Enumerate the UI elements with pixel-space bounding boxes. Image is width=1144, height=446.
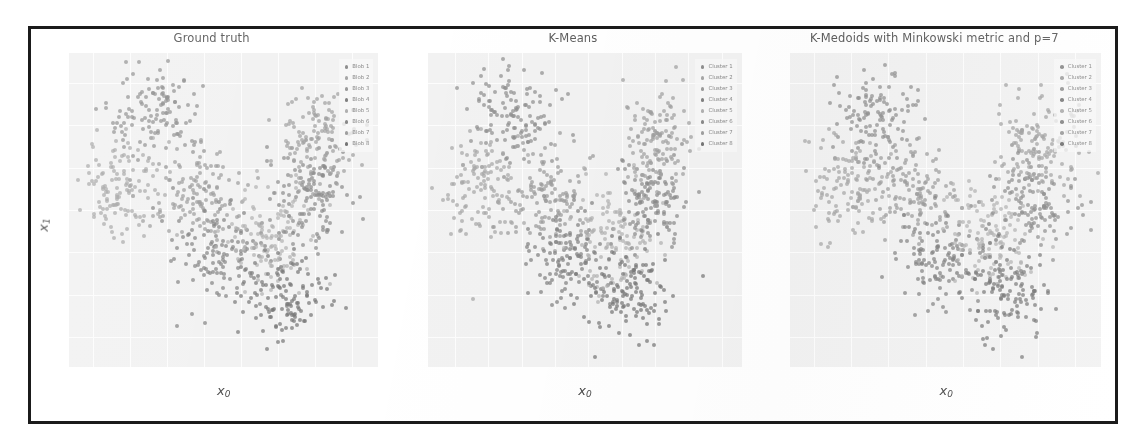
scatter-point bbox=[653, 120, 657, 124]
legend-item[interactable]: Cluster 6 bbox=[698, 117, 733, 127]
scatter-point bbox=[640, 130, 644, 134]
scatter-point bbox=[1009, 215, 1013, 219]
scatter-point bbox=[1062, 183, 1066, 187]
scatter-point bbox=[249, 296, 253, 300]
scatter-point bbox=[633, 226, 637, 230]
scatter-point bbox=[459, 228, 463, 232]
scatter-point bbox=[606, 205, 610, 209]
scatter-point bbox=[259, 288, 263, 292]
legend-item[interactable]: Cluster 3 bbox=[1057, 84, 1092, 94]
scatter-point bbox=[528, 231, 532, 235]
scatter-point bbox=[593, 355, 597, 359]
legend-item[interactable]: Cluster 7 bbox=[1057, 128, 1092, 138]
scatter-point bbox=[1043, 218, 1047, 222]
scatter-point bbox=[318, 214, 322, 218]
legend-marker-icon bbox=[345, 131, 349, 135]
scatter-point bbox=[1029, 270, 1033, 274]
scatter-point bbox=[477, 97, 481, 101]
scatter-point bbox=[879, 93, 883, 97]
scatter-point bbox=[156, 131, 160, 135]
scatter-point bbox=[1031, 296, 1035, 300]
scatter-point bbox=[265, 347, 269, 351]
scatter-point bbox=[224, 294, 228, 298]
scatter-point bbox=[1017, 251, 1021, 255]
scatter-point bbox=[1003, 313, 1007, 317]
scatter-point bbox=[550, 159, 554, 163]
legend-item[interactable]: Cluster 4 bbox=[698, 95, 733, 105]
scatter-point bbox=[115, 121, 119, 125]
scatter-point bbox=[305, 290, 309, 294]
legend-item[interactable]: Cluster 1 bbox=[1057, 62, 1092, 72]
scatter-point bbox=[1006, 186, 1010, 190]
scatter-point bbox=[491, 225, 495, 229]
scatter-point bbox=[318, 182, 322, 186]
scatter-point bbox=[991, 272, 995, 276]
scatter-point bbox=[931, 250, 935, 254]
panel-row: Ground truth-8-6-4-20246420-2-4-6-8Blob … bbox=[31, 29, 1115, 421]
scatter-point bbox=[637, 270, 641, 274]
scatter-point bbox=[923, 181, 927, 185]
scatter-point bbox=[243, 268, 247, 272]
scatter-point bbox=[1016, 165, 1020, 169]
scatter-point bbox=[301, 141, 305, 145]
legend-item[interactable]: Blob 4 bbox=[342, 95, 370, 105]
scatter-point bbox=[574, 272, 578, 276]
scatter-point bbox=[1024, 176, 1028, 180]
legend-item[interactable]: Cluster 5 bbox=[698, 106, 733, 116]
scatter-point bbox=[916, 277, 920, 281]
scatter-point bbox=[312, 100, 316, 104]
scatter-point bbox=[550, 303, 554, 307]
scatter-point bbox=[292, 247, 296, 251]
legend-item[interactable]: Cluster 8 bbox=[1057, 139, 1092, 149]
scatter-point bbox=[641, 316, 645, 320]
scatter-point bbox=[612, 227, 616, 231]
legend-item[interactable]: Blob 1 bbox=[342, 62, 370, 72]
scatter-point bbox=[1017, 179, 1021, 183]
scatter-point bbox=[545, 262, 549, 266]
scatter-point bbox=[982, 219, 986, 223]
scatter-point bbox=[1073, 177, 1077, 181]
scatter-point bbox=[516, 189, 520, 193]
scatter-point bbox=[186, 103, 190, 107]
scatter-point bbox=[539, 220, 543, 224]
scatter-point bbox=[835, 75, 839, 79]
legend-item[interactable]: Cluster 7 bbox=[698, 128, 733, 138]
legend-item[interactable]: Blob 7 bbox=[342, 128, 370, 138]
legend-item[interactable]: Cluster 4 bbox=[1057, 95, 1092, 105]
legend-item[interactable]: Cluster 3 bbox=[698, 84, 733, 94]
scatter-point bbox=[920, 239, 924, 243]
legend-item[interactable]: Blob 8 bbox=[342, 139, 370, 149]
scatter-point bbox=[814, 225, 818, 229]
scatter-point bbox=[903, 291, 907, 295]
scatter-point bbox=[304, 256, 308, 260]
scatter-point bbox=[577, 180, 581, 184]
scatter-point bbox=[155, 108, 159, 112]
scatter-point bbox=[327, 137, 331, 141]
legend-item[interactable]: Cluster 8 bbox=[698, 139, 733, 149]
scatter-point bbox=[1008, 191, 1012, 195]
legend-item[interactable]: Cluster 5 bbox=[1057, 106, 1092, 116]
scatter-point bbox=[652, 309, 656, 313]
legend-item[interactable]: Blob 5 bbox=[342, 106, 370, 116]
scatter-point bbox=[269, 288, 273, 292]
scatter-point bbox=[1027, 255, 1031, 259]
scatter-point bbox=[582, 166, 586, 170]
scatter-point bbox=[282, 230, 286, 234]
legend-item[interactable]: Blob 3 bbox=[342, 84, 370, 94]
legend-item[interactable]: Blob 6 bbox=[342, 117, 370, 127]
scatter-point bbox=[656, 157, 660, 161]
scatter-point bbox=[917, 180, 921, 184]
legend-item[interactable]: Cluster 2 bbox=[698, 73, 733, 83]
legend-item[interactable]: Cluster 6 bbox=[1057, 117, 1092, 127]
scatter-point bbox=[850, 120, 854, 124]
legend-item[interactable]: Cluster 1 bbox=[698, 62, 733, 72]
scatter-point bbox=[217, 200, 221, 204]
scatter-point bbox=[1006, 170, 1010, 174]
scatter-point bbox=[873, 129, 877, 133]
scatter-point bbox=[304, 135, 308, 139]
scatter-point bbox=[176, 280, 180, 284]
scatter-point bbox=[146, 183, 150, 187]
scatter-point bbox=[878, 207, 882, 211]
legend-item[interactable]: Cluster 2 bbox=[1057, 73, 1092, 83]
legend-item[interactable]: Blob 2 bbox=[342, 73, 370, 83]
